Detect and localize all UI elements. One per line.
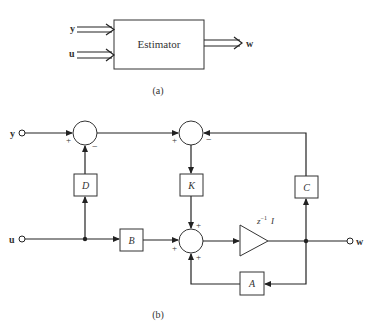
signal-x-to-A — [265, 241, 306, 284]
y-input-label: y — [70, 23, 75, 34]
y-terminal — [19, 130, 25, 136]
delay-label: z−1I — [256, 215, 275, 226]
delay-element — [240, 225, 268, 256]
caption-b: (b) — [152, 309, 164, 321]
signal-C-to-sum2 — [204, 133, 306, 176]
u-vector-input-arrow — [77, 49, 114, 61]
u-terminal — [19, 236, 25, 242]
block-C: C — [295, 176, 318, 198]
sum3-bottom-plus-sign: + — [196, 252, 201, 262]
sum2-plus-sign: + — [172, 135, 177, 145]
y-terminal-label: y — [10, 128, 15, 139]
summing-junction-3 — [179, 229, 203, 253]
sum2-minus-sign: − — [206, 134, 212, 145]
figure-a: Estimator y u w (a) — [69, 20, 254, 97]
w-terminal-label: w — [356, 236, 364, 247]
svg-text:B: B — [128, 235, 134, 246]
w-output-label: w — [246, 38, 254, 49]
svg-text:A: A — [248, 278, 256, 289]
svg-text:K: K — [187, 180, 196, 191]
block-A: A — [240, 272, 264, 295]
block-D: D — [74, 174, 97, 196]
sum1-plus-sign: + — [66, 135, 71, 145]
sum1-minus-sign: − — [92, 141, 98, 152]
caption-a: (a) — [152, 85, 163, 97]
diagram-canvas: Estimator y u w (a) y u w — [0, 0, 371, 332]
svg-text:D: D — [81, 180, 90, 191]
sum3-top-plus-sign: + — [196, 220, 201, 230]
sum3-left-plus-sign: + — [172, 243, 177, 253]
summing-junction-2 — [179, 121, 203, 145]
y-vector-input-arrow — [77, 24, 114, 35]
figure-b: y u w z−1I — [9, 121, 364, 321]
estimator-label: Estimator — [138, 38, 181, 50]
w-terminal — [347, 238, 353, 244]
u-input-label: u — [69, 48, 75, 59]
block-B: B — [120, 229, 143, 251]
svg-text:C: C — [303, 182, 310, 193]
block-K: K — [180, 174, 203, 196]
u-terminal-label: u — [9, 234, 15, 245]
w-vector-output-arrow — [204, 37, 242, 49]
